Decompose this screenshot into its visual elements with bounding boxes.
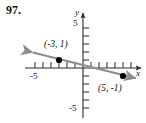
y-axis-label: y (75, 8, 79, 17)
y-tick-label-positive-five: 5 (73, 19, 78, 28)
x-axis-label: x (136, 69, 140, 78)
y-tick-label-negative-five: -5 (69, 104, 77, 113)
exercise-figure: 97. (0, 0, 146, 123)
x-tick-label-negative-five: -5 (30, 72, 38, 81)
point-label-second: (5, -1) (98, 84, 122, 94)
point-label-first: (-3, 1) (44, 40, 68, 50)
data-point-2 (120, 73, 126, 79)
data-point-1 (56, 57, 62, 63)
